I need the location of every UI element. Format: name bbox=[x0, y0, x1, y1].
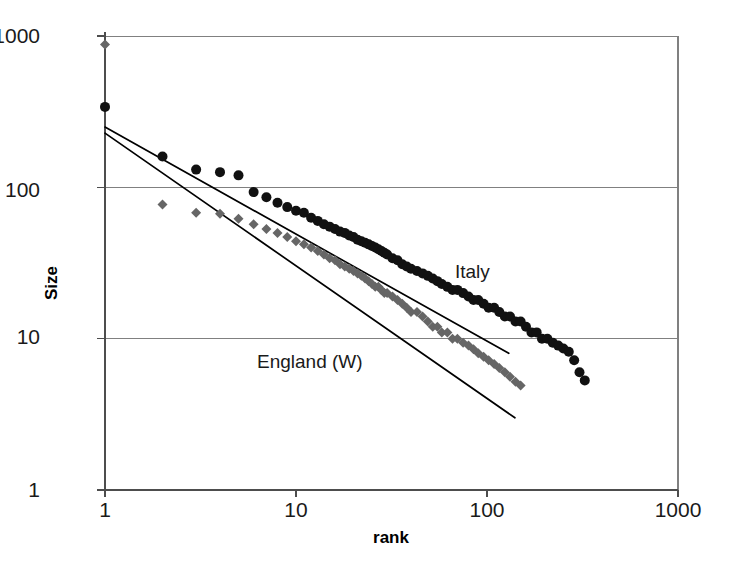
y-axis-title: Size bbox=[42, 266, 62, 300]
data-point bbox=[191, 165, 201, 175]
y-tick-label-1: 1 bbox=[28, 478, 40, 502]
series-label-england: England (W) bbox=[257, 351, 363, 373]
data-point bbox=[249, 187, 259, 197]
data-point bbox=[282, 202, 292, 212]
y-tick-label-10: 10 bbox=[17, 325, 40, 349]
y-tick-label-100: 100 bbox=[5, 178, 40, 202]
data-point bbox=[580, 375, 590, 385]
data-point bbox=[234, 170, 244, 180]
data-point bbox=[569, 355, 579, 365]
data-point bbox=[158, 151, 168, 161]
series-label-italy: Italy bbox=[455, 261, 490, 283]
data-point bbox=[215, 167, 225, 177]
data-point bbox=[564, 347, 574, 357]
rank-size-chart: 1000 100 10 1 1 10 100 1000 rank Size It… bbox=[0, 0, 730, 568]
x-tick-label-10: 10 bbox=[284, 498, 307, 522]
chart-background bbox=[0, 0, 730, 568]
data-point bbox=[261, 192, 271, 202]
y-tick-label-1000: 1000 bbox=[0, 24, 40, 48]
x-tick-label-100: 100 bbox=[469, 498, 504, 522]
data-point bbox=[100, 102, 110, 112]
data-point bbox=[272, 198, 282, 208]
x-axis-title: rank bbox=[373, 528, 409, 548]
x-tick-label-1: 1 bbox=[99, 498, 111, 522]
x-tick-label-1000: 1000 bbox=[655, 498, 702, 522]
chart-canvas bbox=[0, 0, 730, 568]
